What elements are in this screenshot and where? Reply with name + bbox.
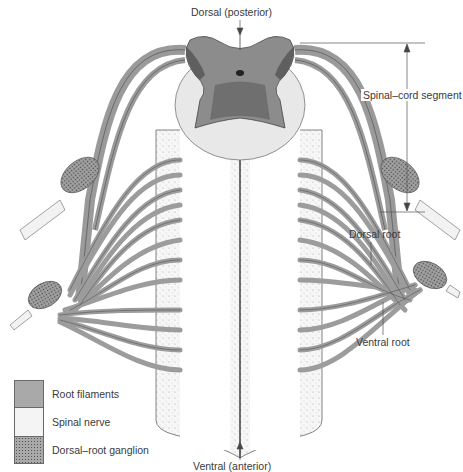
ventral-anterior-label: Ventral (anterior) [193,460,271,472]
spinal-cord-segment-label: Spinal–cord segment [361,89,463,101]
dorsal-root-label: Dorsal root [349,228,400,240]
ventral-root-label: Ventral root [356,336,410,348]
cord-cross-section [175,32,305,160]
legend: Root filaments Spinal nerve Dorsal–root … [14,380,149,464]
dorsal-posterior-label: Dorsal (posterior) [191,6,272,18]
dorsal-root-ganglion-swatch [14,436,44,464]
legend-label: Dorsal–root ganglion [52,444,149,456]
spinal-cord-column [156,120,322,458]
legend-label: Spinal nerve [52,416,110,428]
legend-item-root-filaments: Root filaments [14,380,149,408]
legend-label: Root filaments [52,388,119,400]
legend-item-spinal-nerve: Spinal nerve [14,408,149,436]
legend-item-dorsal-root-ganglion: Dorsal–root ganglion [14,436,149,464]
spinal-nerve-swatch [14,408,44,436]
root-filaments-swatch [14,380,44,408]
